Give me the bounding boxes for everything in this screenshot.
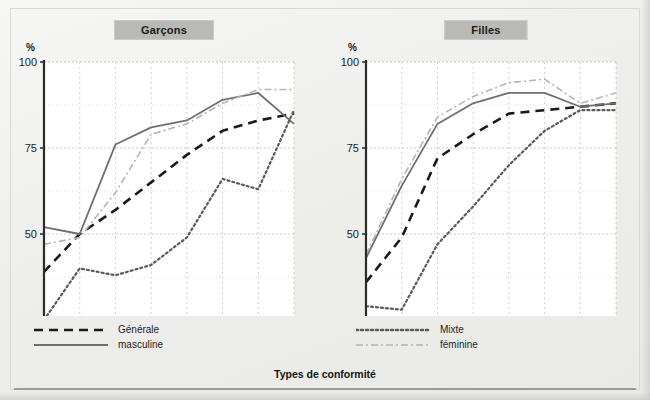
page-edge-shade-right <box>641 0 650 400</box>
svg-text:50: 50 <box>347 228 359 240</box>
svg-text:50: 50 <box>25 228 37 240</box>
legend-label-mixte: Mixte <box>440 324 464 335</box>
svg-text:75: 75 <box>347 142 359 154</box>
legend-item-generale: Générale <box>34 322 163 337</box>
svg-text:75: 75 <box>25 142 37 154</box>
chart-panel-garcons: Garçons % 255075100345678910ans <box>8 16 320 316</box>
footer-divider <box>14 388 636 390</box>
legend-item-feminine: féminine <box>356 337 478 352</box>
svg-text:25: 25 <box>347 314 359 316</box>
legend-item-masculine: masculine <box>34 337 163 352</box>
svg-text:100: 100 <box>341 56 359 68</box>
chart-panel-filles: Filles % 255075100345678910ans <box>330 16 642 316</box>
legend-item-mixte: Mixte <box>356 322 478 337</box>
legend-label-generale: Générale <box>118 324 159 335</box>
plot-area-filles: 255075100345678910ans <box>330 16 642 316</box>
legend-swatch-solid-icon <box>34 340 108 350</box>
legend-swatch-dashdot-icon <box>356 340 430 350</box>
legend-left: Générale masculine <box>34 322 163 352</box>
legend-right: Mixte féminine <box>356 322 478 352</box>
svg-text:25: 25 <box>25 314 37 316</box>
plot-svg-garcons: 255075100345678910ans <box>8 16 320 316</box>
plot-svg-filles: 255075100345678910ans <box>330 16 642 316</box>
figure-footer-title: Types de conformité <box>0 368 650 380</box>
legend-label-masculine: masculine <box>118 339 163 350</box>
legend-swatch-dotted-icon <box>356 325 430 335</box>
figure-root: Garçons % 255075100345678910ans Filles %… <box>0 0 650 400</box>
legend-swatch-dashed-icon <box>34 325 108 335</box>
svg-text:100: 100 <box>19 56 37 68</box>
legend-label-feminine: féminine <box>440 339 478 350</box>
plot-area-garcons: 255075100345678910ans <box>8 16 320 316</box>
page-edge-shade-bottom <box>0 392 650 400</box>
